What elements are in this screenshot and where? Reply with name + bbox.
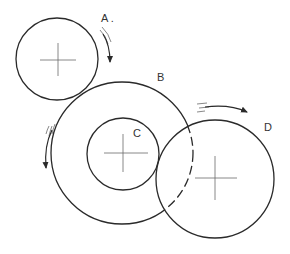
crosshair-icon — [195, 156, 237, 200]
rotation-arrow-a-icon — [100, 27, 111, 62]
label-a: A . — [101, 12, 114, 24]
gear-diagram: A . B C D — [0, 0, 290, 254]
crosshair-icon — [40, 43, 76, 76]
wheel-a — [16, 18, 98, 100]
rotation-arrow-d-icon — [197, 103, 247, 112]
label-d: D — [264, 121, 272, 133]
label-c: C — [133, 127, 141, 139]
wheel-d — [156, 120, 274, 238]
circle-a — [16, 18, 98, 100]
crosshair-icon — [104, 134, 148, 172]
label-b: B — [157, 71, 164, 83]
wheel-c — [87, 118, 159, 190]
rotation-arrow-b-icon — [46, 124, 55, 168]
